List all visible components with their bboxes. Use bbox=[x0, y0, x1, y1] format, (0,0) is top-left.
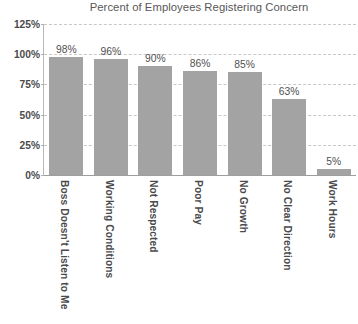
y-axis-tick-mark bbox=[41, 54, 44, 55]
bar-slot: 86% bbox=[183, 24, 217, 175]
bar[interactable] bbox=[317, 169, 351, 175]
plot-area: 98%96%90%86%85%63%5% bbox=[43, 24, 356, 176]
bar[interactable] bbox=[183, 71, 217, 175]
bar-slot: 98% bbox=[49, 24, 83, 175]
bar[interactable] bbox=[228, 72, 262, 175]
bar-value-label: 85% bbox=[234, 59, 255, 70]
bar-slot: 85% bbox=[228, 24, 262, 175]
x-axis-category-label: Boss Doesn't Listen to Me bbox=[59, 180, 70, 309]
bar-chart: Percent of Employees Registering Concern… bbox=[0, 0, 358, 324]
y-axis-tick-mark bbox=[41, 84, 44, 85]
bar-value-label: 98% bbox=[56, 44, 77, 55]
bar-slot: 96% bbox=[94, 24, 128, 175]
y-axis-tick-label: 25% bbox=[4, 139, 40, 150]
y-axis-tick-label: 50% bbox=[4, 109, 40, 120]
x-axis-category-label: No Growth bbox=[238, 180, 249, 233]
bar-value-label: 5% bbox=[326, 156, 341, 167]
x-axis-category-label: Poor Pay bbox=[193, 180, 204, 225]
bar[interactable] bbox=[138, 66, 172, 175]
x-axis-category-label: Working Conditions bbox=[104, 180, 115, 278]
bar[interactable] bbox=[49, 57, 83, 175]
y-axis-tick-label: 100% bbox=[4, 49, 40, 60]
bar-slot: 63% bbox=[272, 24, 306, 175]
y-axis-tick-label: 75% bbox=[4, 79, 40, 90]
y-axis-tick-mark bbox=[41, 115, 44, 116]
bar[interactable] bbox=[94, 59, 128, 175]
bar-value-label: 90% bbox=[145, 53, 166, 64]
x-axis-category-label: Not Respected bbox=[148, 180, 159, 253]
bar-slot: 90% bbox=[138, 24, 172, 175]
y-axis-tick-label: 125% bbox=[4, 19, 40, 30]
y-axis-tick-mark bbox=[41, 175, 44, 176]
y-axis-tick-mark bbox=[41, 24, 44, 25]
y-axis-tick-label: 0% bbox=[4, 170, 40, 181]
bar[interactable] bbox=[272, 99, 306, 175]
chart-title: Percent of Employees Registering Concern bbox=[43, 1, 355, 13]
x-axis-category-label: Work Hours bbox=[327, 180, 338, 239]
x-axis-category-label: No Clear Direction bbox=[282, 180, 293, 271]
bar-value-label: 96% bbox=[101, 46, 122, 57]
bar-slot: 5% bbox=[317, 24, 351, 175]
y-axis-tick-mark bbox=[41, 145, 44, 146]
bar-value-label: 63% bbox=[279, 86, 300, 97]
bar-value-label: 86% bbox=[190, 58, 211, 69]
